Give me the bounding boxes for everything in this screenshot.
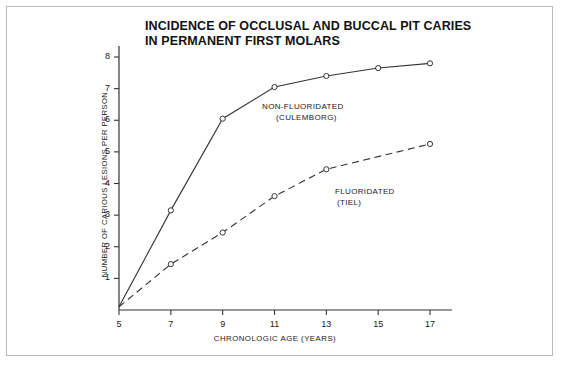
series-marker — [324, 73, 329, 78]
series-marker — [220, 230, 225, 235]
series-line-1 — [119, 144, 430, 307]
series-annotation-nonfluoridated: NON-FLUORIDATED (CULEMBORG) — [262, 101, 344, 123]
chart-page: INCIDENCE OF OCCLUSAL AND BUCCAL PIT CAR… — [0, 0, 568, 371]
series-marker — [272, 84, 277, 89]
series-annotation-fluoridated-line-1: FLUORIDATED — [335, 186, 395, 197]
series-marker — [168, 262, 173, 267]
chart-axes — [114, 46, 452, 315]
series-marker — [376, 65, 381, 70]
series-marker — [272, 194, 277, 199]
series-marker — [220, 116, 225, 121]
chart-series — [119, 61, 433, 307]
series-marker — [324, 167, 329, 172]
series-annotation-nonfluoridated-line-2: (CULEMBORG) — [262, 112, 344, 123]
series-annotation-fluoridated: FLUORIDATED (TIEL) — [335, 186, 395, 208]
series-marker — [427, 61, 432, 66]
chart-plot-area — [0, 0, 568, 371]
series-marker — [168, 208, 173, 213]
series-annotation-fluoridated-line-2: (TIEL) — [335, 197, 395, 208]
series-marker — [427, 141, 432, 146]
series-annotation-nonfluoridated-line-1: NON-FLUORIDATED — [262, 101, 344, 112]
